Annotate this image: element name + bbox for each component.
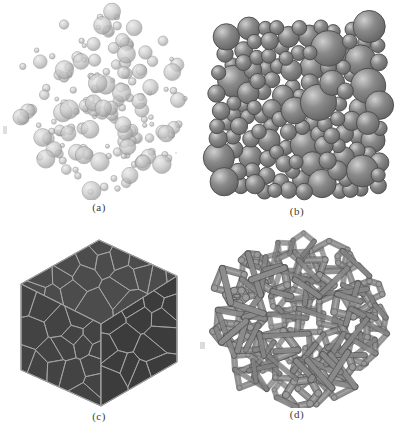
- sphere: [132, 64, 147, 79]
- sphere: [158, 125, 175, 142]
- strut-node: [290, 287, 295, 292]
- connector-strut-body: [276, 350, 298, 351]
- sphere: [149, 115, 154, 120]
- sphere: [50, 53, 56, 59]
- sphere: [247, 34, 262, 49]
- scan-mark-left-a: [3, 126, 7, 134]
- panel-c-graphic: [0, 222, 198, 410]
- strut-node: [315, 390, 322, 397]
- strut-node: [237, 385, 242, 390]
- sphere: [353, 10, 385, 42]
- sphere: [33, 55, 47, 69]
- strut-node: [272, 387, 277, 392]
- sphere: [20, 63, 26, 69]
- sphere: [91, 153, 109, 171]
- strut-node: [282, 322, 287, 327]
- sphere: [210, 168, 238, 196]
- strut-node: [335, 254, 340, 259]
- sphere: [262, 49, 276, 63]
- connector-strut-body: [261, 334, 309, 337]
- sphere: [337, 83, 353, 99]
- sphere: [34, 48, 39, 53]
- sphere: [235, 55, 251, 71]
- sphere: [342, 34, 357, 49]
- strut-node: [379, 291, 385, 297]
- sphere: [261, 32, 278, 49]
- panel-a-graphic: [0, 2, 198, 200]
- strut-node: [238, 257, 244, 263]
- sphere: [245, 174, 264, 193]
- sphere: [103, 68, 110, 75]
- panel-b-graphic: [198, 2, 396, 202]
- sphere: [115, 117, 131, 133]
- sphere: [73, 54, 89, 70]
- panel-d-caption: (d): [198, 408, 396, 420]
- strut-node: [364, 334, 370, 340]
- sphere: [36, 123, 41, 128]
- sphere-group: [13, 3, 187, 200]
- connector-strut-body: [311, 378, 312, 380]
- strut-node: [283, 391, 290, 398]
- sphere: [115, 186, 121, 192]
- sphere: [247, 100, 261, 114]
- sphere: [79, 38, 84, 43]
- sphere: [94, 16, 112, 34]
- sphere: [303, 46, 317, 60]
- sphere: [70, 87, 76, 93]
- strut-node: [331, 309, 338, 316]
- sphere: [82, 44, 86, 48]
- sphere: [132, 94, 147, 109]
- panel-b-caption: (b): [198, 205, 396, 217]
- packed-sphere-group: [203, 10, 393, 199]
- sphere: [100, 183, 108, 191]
- sphere: [61, 126, 76, 141]
- sphere: [252, 124, 267, 139]
- sphere: [126, 20, 142, 36]
- sphere: [113, 22, 121, 30]
- sphere: [164, 64, 181, 81]
- sphere: [122, 167, 138, 183]
- sphere: [279, 51, 293, 65]
- strut-node: [288, 327, 292, 331]
- sphere: [61, 165, 71, 175]
- sphere: [371, 54, 388, 71]
- sphere: [139, 46, 152, 59]
- strut-node: [287, 360, 291, 364]
- sphere: [268, 183, 282, 197]
- sphere: [13, 109, 29, 125]
- sphere: [55, 97, 59, 101]
- strut-node: [322, 257, 328, 263]
- sphere: [60, 100, 79, 119]
- sphere: [371, 168, 385, 182]
- sphere: [39, 90, 49, 100]
- sphere: [331, 112, 345, 126]
- sphere: [82, 181, 101, 200]
- sphere: [118, 67, 130, 79]
- strut-node: [254, 251, 260, 257]
- strut-node: [317, 321, 322, 326]
- strut-node: [349, 364, 356, 371]
- sphere: [212, 66, 226, 80]
- strut-node: [358, 366, 363, 371]
- figure-root: (a) (b) (c) (d): [0, 0, 396, 439]
- sphere: [75, 146, 92, 163]
- strut-node: [376, 281, 382, 287]
- strut-node: [301, 231, 305, 235]
- sphere: [289, 155, 303, 169]
- sphere: [55, 61, 73, 79]
- strut-node: [242, 294, 249, 301]
- sphere: [171, 93, 186, 108]
- sphere: [319, 152, 336, 169]
- sphere: [158, 36, 168, 46]
- strut-node: [276, 344, 280, 348]
- sphere: [51, 119, 56, 124]
- strut-node: [307, 400, 314, 407]
- panel-d-graphic: [198, 222, 396, 408]
- sphere: [213, 24, 239, 50]
- sphere: [280, 182, 297, 199]
- panel-a-caption: (a): [0, 201, 198, 213]
- sphere: [250, 73, 265, 88]
- sphere: [120, 139, 136, 155]
- strut-node: [238, 287, 245, 294]
- sphere: [87, 37, 100, 50]
